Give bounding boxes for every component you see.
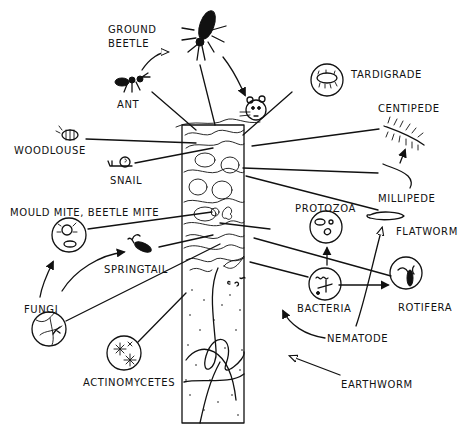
label-bacteria: BACTERIA xyxy=(297,303,351,314)
label-woodlouse: WOODLOUSE xyxy=(14,145,86,156)
protozoa-icon xyxy=(310,211,342,243)
label-ant: ANT xyxy=(117,99,140,110)
label-snail: SNAIL xyxy=(110,175,142,186)
tardigrade-icon xyxy=(311,64,343,96)
bacteria-icon xyxy=(309,268,341,300)
label-ground-beetle-line1: GROUND xyxy=(108,24,157,35)
shrew-icon xyxy=(240,96,266,120)
nematode-icon xyxy=(228,277,245,286)
svg-text:GROUND: GROUND xyxy=(108,24,157,35)
ant-icon xyxy=(115,73,150,92)
label-rotifera: ROTIFERA xyxy=(398,302,452,313)
millipede-icon xyxy=(383,164,411,188)
label-ground-beetle-line2: BEETLE xyxy=(108,38,149,49)
woodlouse-icon xyxy=(56,126,78,140)
labels: GROUND BEETLE ANT TARDIGRADE CENTIPEDE W… xyxy=(10,24,458,390)
label-fungi: FUNGI xyxy=(24,304,58,315)
springtail-icon xyxy=(128,235,153,255)
actinomycetes-icon xyxy=(107,336,141,370)
snail-icon xyxy=(108,157,132,167)
label-nematode: NEMATODE xyxy=(327,333,388,344)
fungi-icon xyxy=(32,312,66,346)
centipede-icon xyxy=(384,117,424,150)
label-springtail: SPRINGTAIL xyxy=(104,264,168,275)
label-actinomycetes: ACTINOMYCETES xyxy=(83,377,175,388)
rotifera-icon xyxy=(390,257,422,289)
diagram-canvas: GROUND BEETLE ANT TARDIGRADE CENTIPEDE W… xyxy=(0,0,462,434)
label-centipede: CENTIPEDE xyxy=(378,103,440,114)
svg-text:BEETLE: BEETLE xyxy=(108,38,149,49)
label-millipede: MILLIPEDE xyxy=(378,193,435,204)
soil-column xyxy=(176,119,260,423)
earthworm-icon xyxy=(184,268,244,423)
label-tardigrade: TARDIGRADE xyxy=(350,69,422,80)
label-flatworm: FLATWORM xyxy=(396,226,458,237)
mould-mite-icon xyxy=(52,218,86,252)
label-protozoa: PROTOZOA xyxy=(295,203,356,214)
label-mould-mite: MOULD MITE, BEETLE MITE xyxy=(10,207,159,218)
soil-food-web-diagram: GROUND BEETLE ANT TARDIGRADE CENTIPEDE W… xyxy=(0,0,462,434)
litter-layer xyxy=(176,119,260,272)
ground-beetle-icon xyxy=(182,9,226,60)
flatworm-icon xyxy=(367,212,404,220)
label-earthworm: EARTHWORM xyxy=(341,379,413,390)
